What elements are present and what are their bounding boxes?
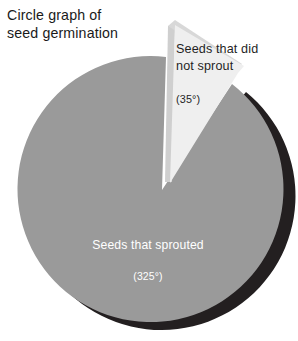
circle-graph-figure: Circle graph of seed germination Seeds t…	[0, 0, 298, 341]
pie-slice-sprouted	[17, 56, 283, 322]
pie-chart-graphic	[0, 0, 298, 341]
pie-slice-sprouted-face	[17, 56, 283, 322]
